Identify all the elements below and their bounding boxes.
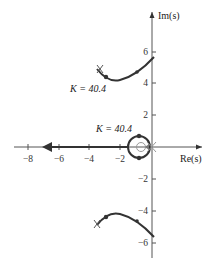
gain-point	[104, 75, 108, 79]
x-tick-label: −4	[84, 154, 94, 164]
x-tick-label: −2	[115, 154, 125, 164]
upper-branch	[97, 57, 154, 81]
gain-point	[104, 215, 108, 219]
y-tick-label: −4	[138, 206, 148, 216]
root-locus-plot: −8 −6 −4 −2 6 4 2 −2 −4 −6 Im(s) Re(s) K…	[0, 0, 216, 265]
real-axis-arrow-icon	[196, 145, 202, 150]
pole-x-icon	[94, 220, 100, 228]
imag-axis-label: Im(s)	[158, 10, 180, 22]
gain-annotation-upper: K = 40.4	[69, 83, 106, 94]
real-axis-label: Re(s)	[180, 153, 202, 165]
y-tick-label: 6	[143, 47, 148, 57]
y-tick-label: 4	[143, 78, 148, 88]
arrow-dot	[135, 70, 139, 74]
x-tick-label: −6	[54, 154, 64, 164]
gain-annotation-real: K = 40.4	[95, 123, 132, 134]
imag-axis-arrow-icon	[150, 12, 155, 18]
y-tick-label: −6	[138, 238, 148, 248]
axes	[14, 12, 202, 258]
lower-branch	[94, 213, 154, 237]
y-tick-label: −2	[138, 174, 148, 184]
x-tick-label: −8	[23, 154, 33, 164]
y-tick-label: 2	[143, 110, 148, 120]
arrow-dot	[135, 219, 139, 223]
